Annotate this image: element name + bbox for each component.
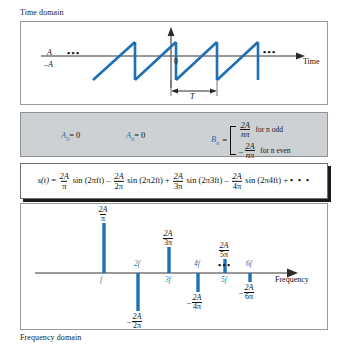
bn-odd-numerator: 2A <box>240 121 251 130</box>
harmonic-numerator: 2A <box>244 284 255 292</box>
amplitude-negative-label: –A <box>44 61 53 69</box>
harmonic-numerator: 2A <box>98 206 109 214</box>
equation-lhs: s(t) <box>38 175 49 185</box>
harmonic-denominator: 2π <box>132 321 142 330</box>
term3-denominator: 3π <box>173 181 184 191</box>
harmonic-amplitude-label: 2Aπ <box>97 206 109 223</box>
coefficient-bn: Bn = 2A nπ for n odd – 2A <box>211 121 291 161</box>
fourier-figure: Time domain <box>0 0 348 351</box>
harmonic-frequency-label: f <box>100 276 102 284</box>
harmonic-frequency-label: 2f <box>134 260 140 268</box>
time-left-ellipsis: ••• <box>67 49 81 58</box>
harmonic-frequency-label: 4f <box>194 260 200 268</box>
bn-subscript: n <box>216 140 219 146</box>
equation-op3: – <box>224 175 228 185</box>
time-domain-caption: Time domain <box>20 8 64 17</box>
time-domain-panel: A –A ••• ••• 0 Time T <box>20 21 328 105</box>
bn-cases: 2A nπ for n odd – 2A nπ for n even <box>239 121 291 161</box>
bn-odd-denominator: nπ <box>240 129 251 139</box>
harmonic-sign: – <box>187 299 191 307</box>
fourier-series-equation: s(t) = 2Aπ sin (2πft) – 2A2π sin (2π2ft)… <box>21 172 327 190</box>
harmonic-amplitude-label: 2A5π <box>218 242 230 259</box>
bn-case-even: – 2A nπ for n even <box>239 142 291 160</box>
harmonic-frequency-label: 6f <box>246 260 252 268</box>
coefficient-an: An= 0 <box>126 131 145 142</box>
harmonic-denominator: 5π <box>219 250 229 259</box>
equation-op4: + <box>283 175 288 185</box>
amplitude-positive-label: A <box>47 49 52 57</box>
harmonic-amplitude-label: –2A4π <box>187 294 203 311</box>
coefficient-a0: A0= 0 <box>61 131 80 142</box>
frequency-domain-plot <box>21 204 327 329</box>
term3-sin: sin (2π3ft) <box>187 175 223 185</box>
time-axis-label: Time <box>303 58 320 66</box>
bn-odd-condition: for n odd <box>255 125 283 134</box>
bn-case-odd: 2A nπ for n odd <box>239 121 291 139</box>
bn-equals: = <box>222 136 227 145</box>
cases-brace <box>230 126 236 155</box>
term3-numerator: 2A <box>172 172 183 181</box>
equation-tail-ellipsis: • • • <box>290 175 310 185</box>
term2-denominator: 2π <box>114 181 125 191</box>
a0-value: = 0 <box>69 130 80 140</box>
harmonic-numerator: 2A <box>132 313 143 321</box>
amplitude-axis-arrowhead <box>168 27 175 36</box>
bn-even-condition: for n even <box>260 146 290 155</box>
harmonic-amplitude-label: 2A3π <box>162 230 174 247</box>
harmonic-sign: – <box>239 289 243 297</box>
harmonic-denominator: 4π <box>192 302 202 311</box>
harmonic-frequency-label: 5f <box>221 276 227 284</box>
term2-sin: sin (2π2ft) <box>127 175 163 185</box>
term2-numerator: 2A <box>113 172 124 181</box>
harmonic-amplitude-label: –2A2π <box>127 313 143 330</box>
fourier-coefficients-panel: A0= 0 An= 0 Bn = 2A nπ for n od <box>20 112 328 157</box>
term4-denominator: 4π <box>232 181 243 191</box>
term4-sin: sin (2π4ft) <box>245 175 281 185</box>
frequency-domain-caption: Frequency domain <box>20 333 81 342</box>
harmonic-denominator: 6π <box>244 292 254 301</box>
time-right-ellipsis: ••• <box>263 48 277 57</box>
harmonic-frequency-label: 3f <box>165 276 171 284</box>
harmonic-numerator: 2A <box>219 242 230 250</box>
harmonic-denominator: 3π <box>163 238 173 247</box>
term4-numerator: 2A <box>231 172 242 181</box>
harmonic-numerator: 2A <box>163 230 174 238</box>
term1-denominator: π <box>61 181 67 191</box>
harmonic-denominator: π <box>100 214 106 223</box>
bn-even-denominator: nπ <box>245 150 256 160</box>
time-origin-label: 0 <box>174 58 178 66</box>
term1-sin: sin (2πft) <box>73 175 104 185</box>
term1-numerator: 2A <box>59 172 70 181</box>
bn-even-numerator: 2A <box>244 142 255 151</box>
harmonic-amplitude-label: –2A6π <box>239 284 255 301</box>
an-value: = 0 <box>134 130 145 140</box>
frequency-domain-panel: f2Aπ2f–2A2π3f2A3π4f–2A4π5f2A5π6f–2A6π ••… <box>20 203 328 330</box>
bn-even-sign: – <box>239 146 243 156</box>
frequency-axis-label: Frequency <box>275 276 309 284</box>
frequency-ellipsis: ••• <box>218 261 232 270</box>
fourier-series-equation-panel: s(t) = 2Aπ sin (2πft) – 2A2π sin (2π2ft)… <box>20 163 328 199</box>
equation-op2: + <box>165 175 170 185</box>
harmonic-numerator: 2A <box>192 294 203 302</box>
period-label: T <box>190 93 194 101</box>
equation-op1: – <box>106 175 110 185</box>
equation-equals: = <box>51 175 56 185</box>
harmonic-sign: – <box>127 318 131 326</box>
